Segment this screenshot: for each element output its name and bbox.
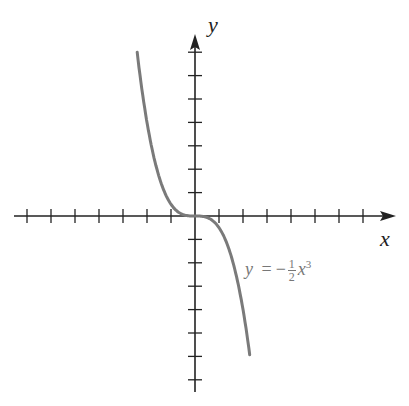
eq-sign: = [262, 259, 272, 279]
x-axis-label: x [380, 226, 390, 252]
equation-label: y =−12x3 [245, 258, 311, 283]
eq-var: x [298, 259, 306, 279]
eq-lhs: y [245, 259, 253, 279]
plot-area [0, 0, 409, 406]
eq-minus: − [276, 259, 286, 279]
eq-fraction: 12 [288, 258, 296, 283]
eq-exponent: 3 [306, 258, 312, 270]
eq-denominator: 2 [288, 271, 296, 283]
y-axis-label: y [208, 12, 218, 38]
